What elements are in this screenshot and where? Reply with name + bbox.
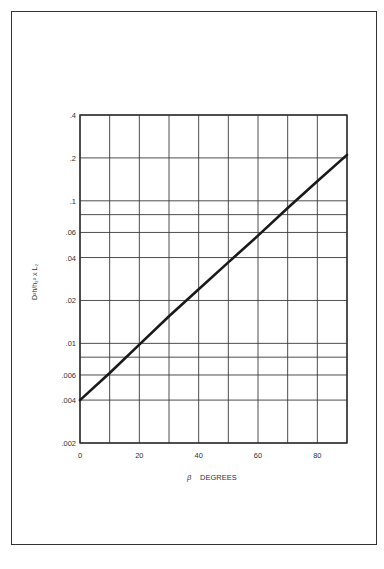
y-tick-label: .002: [61, 439, 76, 448]
y-tick-label: .04: [66, 254, 76, 263]
x-tick-label: 60: [254, 451, 262, 460]
y-tick-label: .4: [70, 111, 76, 120]
chart: .4.2.1.06.04.02.01.006.004.002 020406080…: [0, 0, 384, 569]
y-tick-label: .06: [66, 228, 76, 237]
y-tick-label: .2: [70, 154, 76, 163]
data-line: [80, 155, 347, 400]
x-axis-label-symbol: β: [186, 473, 192, 482]
x-tick-labels: 020406080: [78, 451, 322, 460]
y-tick-labels: .4.2.1.06.04.02.01.006.004.002: [61, 111, 76, 448]
x-tick-label: 20: [135, 451, 143, 460]
y-tick-label: .1: [70, 197, 76, 206]
y-tick-label: .004: [61, 396, 76, 405]
x-tick-label: 80: [313, 451, 321, 460]
x-tick-label: 0: [78, 451, 82, 460]
plot-border: [80, 115, 347, 443]
y-tick-label: .02: [66, 296, 76, 305]
y-axis-label: D²h/h₂² x L₂: [31, 264, 38, 300]
x-tick-label: 40: [194, 451, 202, 460]
grid: [80, 115, 347, 443]
y-tick-label: .006: [61, 371, 76, 380]
x-axis-label: DEGREES: [200, 473, 237, 482]
y-tick-label: .01: [66, 339, 76, 348]
